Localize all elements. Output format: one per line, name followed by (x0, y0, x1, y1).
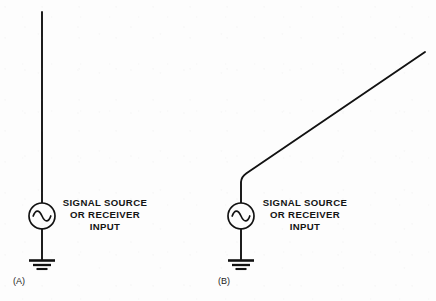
panel-b-label: (B) (218, 276, 230, 286)
antenna-comparison-figure: SIGNAL SOURCE OR RECEIVER INPUT (A) SIGN… (0, 0, 436, 301)
panel-b-caption-line-2: OR RECEIVER (270, 209, 340, 220)
panel-b-group: SIGNAL SOURCE OR RECEIVER INPUT (B) (218, 52, 425, 286)
panel-b-caption-line-1: SIGNAL SOURCE (263, 197, 348, 208)
panel-a-group: SIGNAL SOURCE OR RECEIVER INPUT (A) (13, 12, 147, 286)
panel-a-label: (A) (13, 276, 25, 286)
antenna-bent-wire (241, 52, 425, 203)
panel-b-caption-line-3: INPUT (290, 221, 321, 232)
figure-canvas: SIGNAL SOURCE OR RECEIVER INPUT (A) SIGN… (0, 0, 436, 301)
panel-a-caption-line-3: INPUT (90, 221, 121, 232)
panel-a-caption-line-1: SIGNAL SOURCE (63, 197, 148, 208)
panel-a-caption-line-2: OR RECEIVER (70, 209, 140, 220)
